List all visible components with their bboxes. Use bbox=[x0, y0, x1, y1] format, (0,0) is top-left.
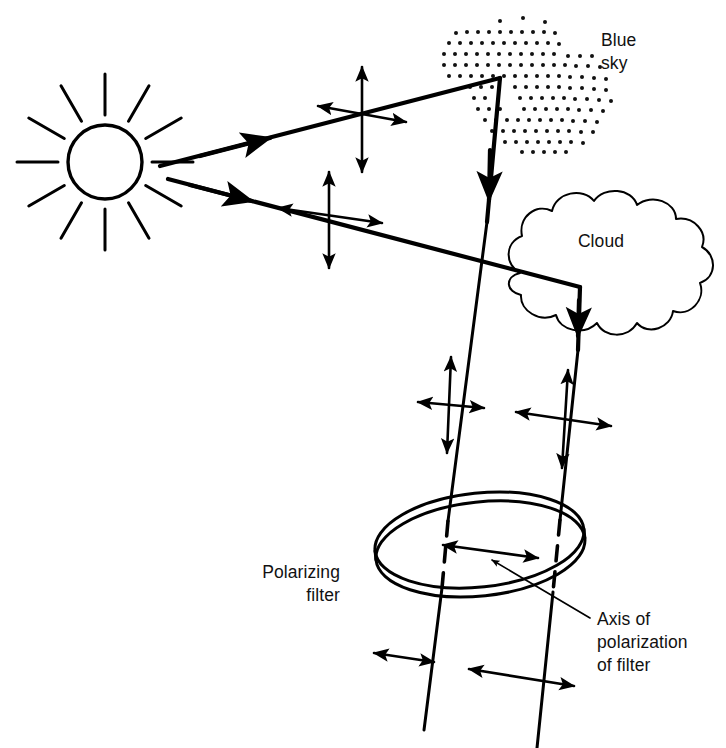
horizontal-polarization-arrow bbox=[418, 402, 484, 408]
sun-rays bbox=[17, 74, 193, 250]
polarizing-filter-label-line1: Polarizing bbox=[262, 562, 340, 582]
cloud-icon bbox=[509, 191, 713, 335]
sun-icon bbox=[17, 74, 193, 250]
polarized-arrow-cloud-ray bbox=[469, 669, 574, 686]
ray-direction-arrow bbox=[190, 185, 252, 201]
sun-disk bbox=[68, 125, 142, 199]
filter-edge-right bbox=[584, 529, 585, 538]
unpolarized-cross-cloud-ray bbox=[278, 172, 382, 268]
polarizing-filter-label-line2: filter bbox=[306, 585, 340, 605]
unpolarized-cross-scattered-sky-ray bbox=[418, 357, 484, 453]
filter-edge-left bbox=[375, 551, 376, 560]
axis-of-polarization-arrow bbox=[443, 545, 538, 558]
polarized-arrow-sky-ray bbox=[374, 653, 434, 662]
axis-label-line1: Axis of bbox=[597, 609, 650, 629]
cloud-shape bbox=[509, 191, 713, 335]
axis-label-line2: polarization bbox=[597, 632, 688, 652]
cloud-label: Cloud bbox=[578, 231, 624, 251]
ray-direction-arrow bbox=[578, 300, 579, 336]
horizontal-polarization-arrow bbox=[374, 653, 434, 662]
axis-of-polarization-leader-line bbox=[492, 560, 590, 618]
polarization-diagram-figure: Blue sky Cloud bbox=[0, 0, 726, 748]
horizontal-polarization-arrow bbox=[469, 669, 574, 686]
blue-sky-label-line2: sky bbox=[601, 53, 628, 73]
unpolarized-cross-scattered-cloud-ray bbox=[516, 370, 611, 468]
diagram-canvas: Blue sky Cloud bbox=[0, 0, 726, 748]
filter-top-face bbox=[370, 482, 589, 597]
sunlight-to-cloud-ray bbox=[168, 179, 580, 748]
unpolarized-cross-sky-ray bbox=[318, 67, 406, 172]
axis-label-line3: of filter bbox=[597, 655, 650, 675]
ray-direction-arrow bbox=[489, 150, 490, 200]
ray-direction-arrow bbox=[200, 138, 270, 156]
blue-sky-label-line1: Blue bbox=[601, 30, 636, 50]
